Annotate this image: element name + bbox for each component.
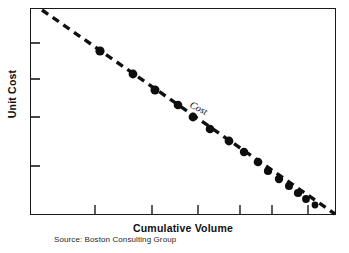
- plot-area-frame: [30, 8, 336, 215]
- chart-figure: Cost Unit Cost Cumulative Volume Source:…: [0, 0, 349, 253]
- y-axis-label: Unit Cost: [6, 64, 18, 124]
- x-axis-label: Cumulative Volume: [30, 222, 336, 234]
- source-attribution: Source: Boston Consulting Group: [54, 235, 176, 244]
